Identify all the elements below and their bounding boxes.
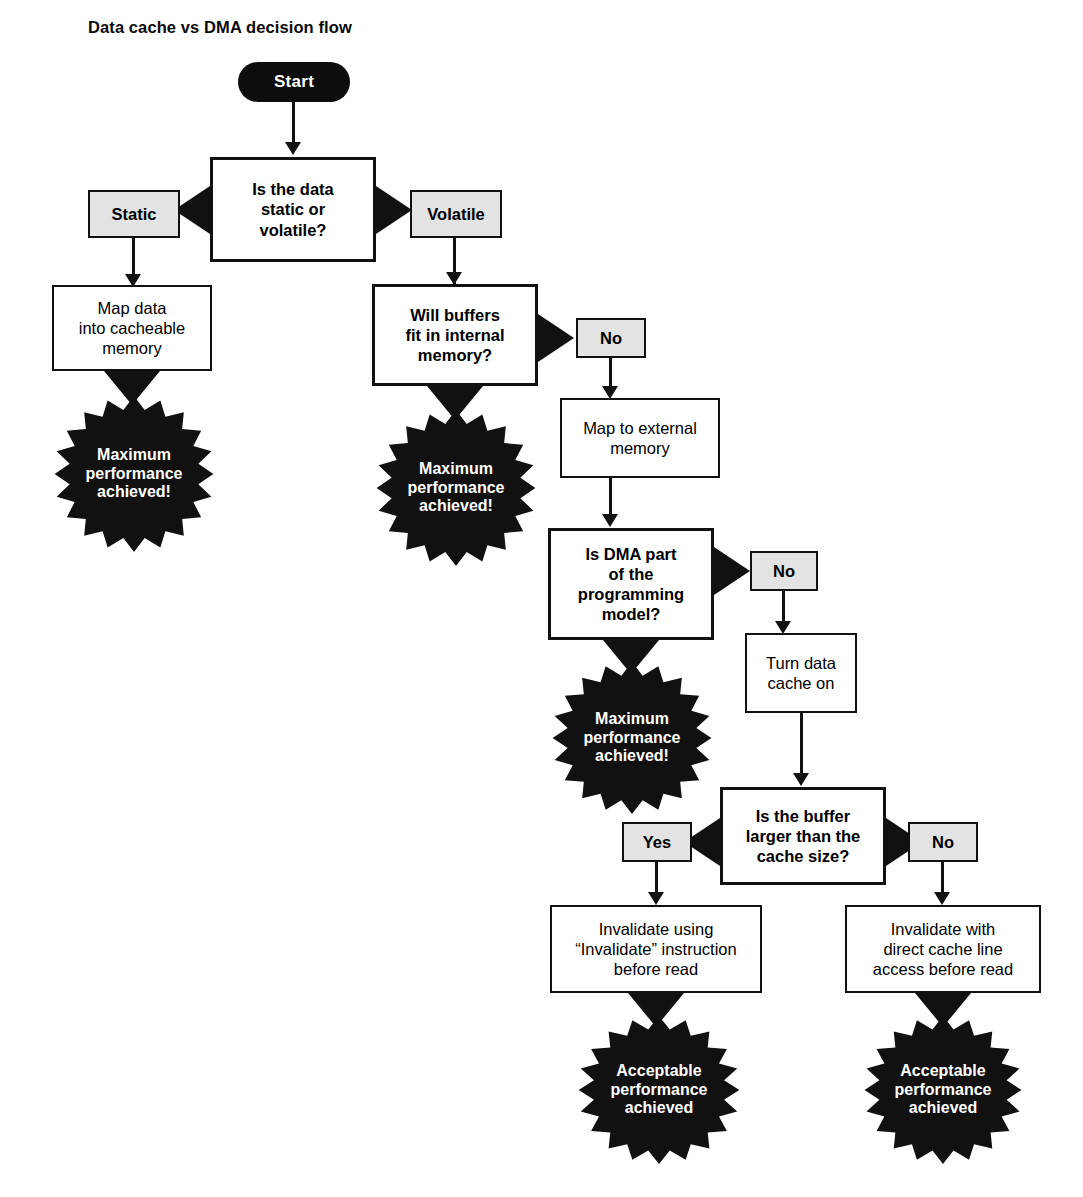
page-title: Data cache vs DMA decision flow [88,18,352,37]
branch-chip-no-dma[interactable]: No [750,551,818,591]
branch-chip-static[interactable]: Static [88,190,180,238]
branch-arrow-right-icon [376,186,412,234]
branch-chip-yes-buffer-size[interactable]: Yes [622,822,692,862]
branch-arrow-right-icon [538,314,574,362]
process-turn-data-cache-on[interactable]: Turn datacache on [745,633,857,713]
arrow-down-icon [793,773,809,786]
outcome-text: Maximumperformanceachieved! [578,710,687,766]
arrow-down-icon [602,514,618,527]
outcome-text: Acceptableperformanceachieved [605,1062,714,1118]
decision-buffer-larger-than-cache-size[interactable]: Is the bufferlarger than thecache size? [720,787,886,885]
outcome-maximum-performance-dma: Maximumperformanceachieved! [544,662,720,814]
arrow-down-icon [934,892,950,905]
outcome-text: Acceptableperformanceachieved [889,1062,998,1118]
process-invalidate-using-instruction[interactable]: Invalidate using“Invalidate” instruction… [550,905,762,993]
decision-buffers-fit-internal-memory[interactable]: Will buffersfit in internalmemory? [372,284,538,386]
outcome-maximum-performance-left: Maximumperformanceachieved! [46,396,222,552]
flowchart-canvas: Data cache vs DMA decision flow Start Is… [0,0,1083,1197]
process-invalidate-direct-cache-line[interactable]: Invalidate withdirect cache lineaccess b… [845,905,1041,993]
process-map-data-into-cacheable-memory[interactable]: Map datainto cacheablememory [52,285,212,371]
connector-start-to-q-static [292,102,295,144]
branch-chip-no-buffer-size[interactable]: No [908,822,978,862]
branch-chip-no-buffers[interactable]: No [576,318,646,358]
outcome-acceptable-performance-left: Acceptableperformanceachieved [570,1016,748,1164]
start-terminator[interactable]: Start [238,62,350,102]
arrow-down-icon [648,892,664,905]
branch-arrow-right-icon [714,547,750,595]
outcome-acceptable-performance-right: Acceptableperformanceachieved [856,1016,1030,1164]
arrow-down-icon [285,142,301,155]
decision-dma-part-of-programming-model[interactable]: Is DMA partof theprogrammingmodel? [548,528,714,640]
branch-chip-volatile[interactable]: Volatile [410,190,502,238]
outcome-maximum-performance-buffers: Maximumperformanceachieved! [368,410,544,566]
outcome-text: Maximumperformanceachieved! [402,460,511,516]
process-map-to-external-memory[interactable]: Map to externalmemory [560,398,720,478]
outcome-text: Maximumperformanceachieved! [80,446,189,502]
decision-data-static-or-volatile[interactable]: Is the datastatic orvolatile? [210,157,376,262]
